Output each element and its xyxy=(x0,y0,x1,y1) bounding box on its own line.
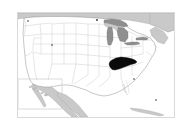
region-cuba xyxy=(130,108,164,116)
contiguous-us-landmass xyxy=(23,17,156,97)
us-locator-map-figure: United States locator map Map of the Uni… xyxy=(0,0,190,130)
us-map-graphic xyxy=(0,0,190,130)
